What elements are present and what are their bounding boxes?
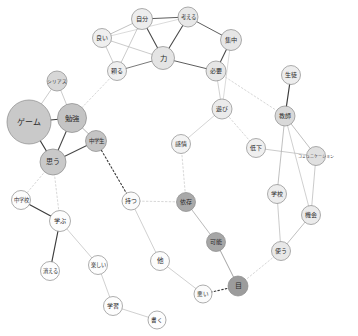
graph-node[interactable]: 考える xyxy=(178,7,198,27)
graph-node[interactable]: 良い xyxy=(93,29,112,48)
graph-node[interactable]: 思う xyxy=(40,149,66,175)
node-circle[interactable] xyxy=(268,185,287,204)
node-circle[interactable] xyxy=(104,297,123,316)
node-circle[interactable] xyxy=(206,61,226,81)
node-circle[interactable] xyxy=(108,62,127,81)
graph-node[interactable]: 可能 xyxy=(207,233,226,252)
node-circle[interactable] xyxy=(177,193,196,212)
node-circle[interactable] xyxy=(40,149,66,175)
graph-node[interactable]: 勉強 xyxy=(58,104,87,133)
node-circle[interactable] xyxy=(221,30,242,51)
network-canvas: 良い自分考える集中力頼る必要遊び感情低下生徒教師コミュニケーション学校機会使う目… xyxy=(0,0,358,336)
graph-node[interactable]: 感情 xyxy=(172,135,191,154)
node-circle[interactable] xyxy=(47,71,67,91)
graph-node[interactable]: 他 xyxy=(151,252,170,271)
node-circle[interactable] xyxy=(302,206,321,225)
node-circle[interactable] xyxy=(152,47,175,70)
graph-node[interactable]: 依存 xyxy=(177,193,196,212)
graph-node[interactable]: 目 xyxy=(228,276,248,296)
node-circle[interactable] xyxy=(7,100,51,144)
graph-node[interactable]: ゲーム xyxy=(7,100,51,144)
node-circle[interactable] xyxy=(282,66,301,85)
graph-node[interactable]: 書く xyxy=(148,311,166,329)
graph-node[interactable]: 中学校 xyxy=(12,191,31,210)
node-circle[interactable] xyxy=(132,9,153,30)
graph-node[interactable]: 力 xyxy=(152,47,175,70)
node-circle[interactable] xyxy=(194,285,212,303)
node-circle[interactable] xyxy=(41,262,60,281)
graph-node[interactable]: 頼る xyxy=(108,62,127,81)
network-graph: 良い自分考える集中力頼る必要遊び感情低下生徒教師コミュニケーション学校機会使う目… xyxy=(0,0,358,336)
node-circle[interactable] xyxy=(93,29,112,48)
graph-edge xyxy=(131,201,160,261)
graph-node[interactable]: 学習 xyxy=(104,297,123,316)
node-circle[interactable] xyxy=(12,191,31,210)
graph-node[interactable]: 低下 xyxy=(247,139,266,158)
node-circle[interactable] xyxy=(275,106,295,126)
graph-edge xyxy=(277,116,285,194)
graph-node[interactable]: 消える xyxy=(41,262,60,281)
graph-node[interactable]: 持つ xyxy=(122,192,140,210)
node-circle[interactable] xyxy=(148,311,166,329)
graph-edge xyxy=(285,116,311,215)
node-circle[interactable] xyxy=(50,211,71,232)
graph-node[interactable]: 使う xyxy=(272,242,291,261)
node-circle[interactable] xyxy=(58,104,87,133)
node-circle[interactable] xyxy=(247,139,266,158)
node-circle[interactable] xyxy=(122,192,140,210)
graph-node[interactable]: 中学生 xyxy=(86,131,107,152)
graph-node[interactable]: 生徒 xyxy=(282,66,301,85)
node-circle[interactable] xyxy=(307,147,326,166)
graph-node[interactable]: 必要 xyxy=(206,61,226,81)
node-circle[interactable] xyxy=(178,7,198,27)
node-circle[interactable] xyxy=(172,135,191,154)
node-circle[interactable] xyxy=(212,99,232,119)
graph-node[interactable]: 自分 xyxy=(132,9,153,30)
graph-node[interactable]: 遊び xyxy=(212,99,232,119)
node-circle[interactable] xyxy=(151,252,170,271)
node-circle[interactable] xyxy=(89,256,108,275)
graph-node[interactable]: 学校 xyxy=(268,185,287,204)
node-circle[interactable] xyxy=(207,233,226,252)
graph-node[interactable]: 悪い xyxy=(194,285,212,303)
node-layer: 良い自分考える集中力頼る必要遊び感情低下生徒教師コミュニケーション学校機会使う目… xyxy=(7,7,334,329)
graph-node[interactable]: コミュニケーション xyxy=(298,147,334,166)
node-circle[interactable] xyxy=(86,131,107,152)
graph-node[interactable]: 集中 xyxy=(221,30,242,51)
graph-node[interactable]: 機会 xyxy=(302,206,321,225)
graph-node[interactable]: 学ぶ xyxy=(50,211,71,232)
graph-node[interactable]: 楽しい xyxy=(89,256,108,275)
graph-node[interactable]: 教師 xyxy=(275,106,295,126)
node-circle[interactable] xyxy=(272,242,291,261)
graph-node[interactable]: シリアス xyxy=(47,71,67,91)
node-circle[interactable] xyxy=(228,276,248,296)
